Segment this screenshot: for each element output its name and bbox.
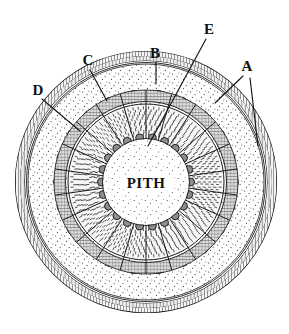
xylem-texture-mark (132, 119, 133, 122)
xylem-texture-mark (159, 107, 160, 110)
xylem-texture-mark (161, 111, 162, 114)
xylem-texture-mark (159, 254, 160, 257)
xylem-texture-mark (202, 192, 205, 193)
xylem-texture-mark (199, 194, 202, 195)
xylem-texture-mark (136, 240, 137, 244)
xylem-texture-mark (158, 115, 159, 118)
xylem-texture-mark (133, 246, 134, 249)
xylem-texture-mark (134, 112, 135, 116)
xylem-texture-mark (202, 171, 205, 172)
callout-label-c: C (83, 52, 94, 68)
xylem-texture-mark (133, 254, 134, 257)
callout-label-d: D (33, 82, 44, 98)
xylem-texture-mark (194, 173, 197, 174)
xylem-texture-mark (132, 243, 133, 246)
xylem-texture-mark (161, 251, 162, 254)
xylem-texture-mark (158, 235, 159, 238)
callout-label-a: A (242, 58, 253, 74)
figure-root: PITH ABCDE (0, 0, 289, 334)
xylem-texture-mark (133, 107, 134, 110)
xylem-texture-mark (134, 123, 135, 126)
xylem-texture-mark (82, 169, 85, 170)
xylem-texture-mark (156, 120, 157, 124)
callout-label-b: B (150, 45, 160, 61)
xylem-texture-mark (134, 238, 135, 241)
xylem-texture-mark (82, 195, 85, 196)
stem-cross-section-diagram: PITH ABCDE (0, 0, 289, 334)
xylem-texture-mark (130, 111, 131, 114)
callout-label-e: E (204, 21, 214, 37)
xylem-texture-mark (134, 248, 135, 252)
xylem-texture-mark (130, 251, 131, 254)
xylem-texture-mark (90, 193, 93, 194)
xylem-texture-mark (210, 194, 213, 195)
diagram-body: PITH ABCDE (16, 21, 277, 313)
pith-label: PITH (127, 175, 166, 191)
